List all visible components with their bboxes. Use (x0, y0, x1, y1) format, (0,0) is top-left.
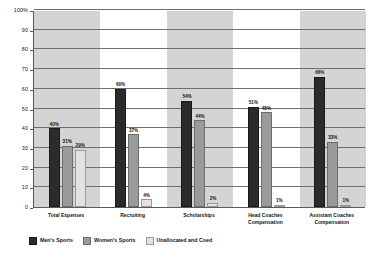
bar-value-label: 4% (143, 194, 150, 199)
bar[interactable] (141, 199, 152, 207)
bar-item[interactable]: 1% (340, 11, 351, 207)
bar-item[interactable]: 4% (141, 11, 152, 207)
bar-value-label: 37% (129, 129, 138, 134)
bar-item[interactable]: 33% (327, 11, 338, 207)
legend-label: Women's Sports (94, 238, 135, 243)
y-axis-tick-mark (30, 90, 33, 91)
bar-group: 54%44%2% (167, 11, 233, 207)
bar[interactable] (248, 107, 259, 207)
bar[interactable] (128, 134, 139, 207)
bar-item[interactable]: 48% (261, 11, 272, 207)
legend-swatch-icon (83, 237, 91, 245)
bar-value-label: 33% (328, 136, 337, 141)
y-axis-tick-label: 100% (0, 8, 28, 13)
bar-item[interactable]: 60% (115, 11, 126, 207)
bar-value-label: 1% (276, 199, 283, 204)
bar-group: 51%48%1% (233, 11, 299, 207)
bar-value-label: 48% (262, 107, 271, 112)
bar-chart: 40%31%29%60%37%4%54%44%2%51%48%1%66%33%1… (0, 0, 372, 259)
bar-value-label: 51% (249, 101, 258, 106)
y-axis-tick-mark (30, 50, 33, 51)
y-axis-tick-label: 60 (0, 87, 28, 92)
y-axis-tick-label: 40 (0, 126, 28, 131)
bar-item[interactable]: 31% (62, 11, 73, 207)
bar-value-label: 29% (76, 144, 85, 149)
legend-label: Men's Sports (40, 238, 73, 243)
bar-item[interactable]: 51% (248, 11, 259, 207)
y-axis-tick-label: 0 (0, 205, 28, 210)
bar[interactable] (62, 146, 73, 207)
y-axis-tick-label: 50 (0, 107, 28, 112)
bar[interactable] (207, 203, 218, 207)
bar-value-label: 60% (116, 83, 125, 88)
x-axis-category-label: Recruiting (99, 212, 165, 219)
x-axis-category-label: Total Expenses (33, 212, 99, 219)
bar-value-label: 40% (50, 123, 59, 128)
y-axis-tick-label: 90 (0, 28, 28, 33)
bar-value-label: 66% (315, 71, 324, 76)
y-axis-tick-mark (30, 31, 33, 32)
y-axis-tick-mark (30, 169, 33, 170)
y-axis-tick-mark (30, 149, 33, 150)
gridline (34, 9, 365, 10)
bar-item[interactable]: 66% (314, 11, 325, 207)
bar[interactable] (261, 112, 272, 207)
bar[interactable] (194, 120, 205, 207)
bar-item[interactable]: 1% (274, 11, 285, 207)
legend-item[interactable]: Unallocated and Coed (146, 237, 213, 245)
bar-item[interactable]: 29% (75, 11, 86, 207)
legend-swatch-icon (29, 237, 37, 245)
bar[interactable] (314, 77, 325, 207)
y-axis-tick-mark (30, 208, 33, 209)
bar-item[interactable]: 54% (181, 11, 192, 207)
x-axis-category-label: Scholarships (166, 212, 232, 219)
bar-item[interactable]: 40% (49, 11, 60, 207)
y-axis-tick-mark (30, 70, 33, 71)
y-axis-tick-label: 10 (0, 185, 28, 190)
bar-item[interactable]: 37% (128, 11, 139, 207)
y-axis-tick-mark (30, 188, 33, 189)
y-axis-tick-mark (30, 129, 33, 130)
bar[interactable] (181, 101, 192, 207)
y-axis-tick-mark (30, 11, 33, 12)
bar-group: 66%33%1% (300, 11, 366, 207)
x-axis-category-label: Assistant Coaches Compensation (299, 212, 365, 226)
y-axis-tick-label: 20 (0, 166, 28, 171)
legend-item[interactable]: Men's Sports (29, 237, 73, 245)
bar[interactable] (274, 205, 285, 207)
y-axis-tick-label: 30 (0, 146, 28, 151)
legend-swatch-icon (146, 237, 154, 245)
bar[interactable] (75, 150, 86, 207)
bar-item[interactable]: 44% (194, 11, 205, 207)
legend: Men's SportsWomen's SportsUnallocated an… (29, 237, 212, 245)
bar[interactable] (49, 128, 60, 207)
bar[interactable] (115, 89, 126, 207)
bar-value-label: 54% (182, 95, 191, 100)
bar-value-label: 1% (342, 199, 349, 204)
bar-group: 40%31%29% (34, 11, 100, 207)
x-axis-category-label: Head Coaches Compensation (232, 212, 298, 226)
y-axis-tick-label: 80 (0, 47, 28, 52)
y-axis-tick-label: 70 (0, 67, 28, 72)
bar-value-label: 2% (210, 197, 217, 202)
bar-value-label: 44% (195, 115, 204, 120)
y-axis-tick-mark (30, 110, 33, 111)
legend-label: Unallocated and Coed (157, 238, 213, 243)
bar-group: 60%37%4% (100, 11, 166, 207)
legend-item[interactable]: Women's Sports (83, 237, 135, 245)
bar-value-label: 31% (63, 140, 72, 145)
bar[interactable] (327, 142, 338, 207)
bar-item[interactable]: 2% (207, 11, 218, 207)
bar[interactable] (340, 205, 351, 207)
plot-area: 40%31%29%60%37%4%54%44%2%51%48%1%66%33%1… (33, 11, 365, 208)
